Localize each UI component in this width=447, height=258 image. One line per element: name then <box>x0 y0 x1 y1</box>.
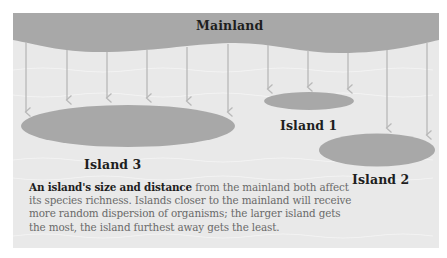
island-3-label: Island 3 <box>84 157 141 172</box>
island-1-label: Island 1 <box>280 118 337 133</box>
caption: An island's size and distance from the m… <box>29 181 359 234</box>
island-2-label: Island 2 <box>352 172 409 187</box>
island-2-shape <box>319 134 435 167</box>
island-3-shape <box>21 105 235 147</box>
caption-bold-lead: An island's size and distance <box>29 181 192 193</box>
mainland-label: Mainland <box>196 18 263 33</box>
island-1-shape <box>264 92 354 110</box>
